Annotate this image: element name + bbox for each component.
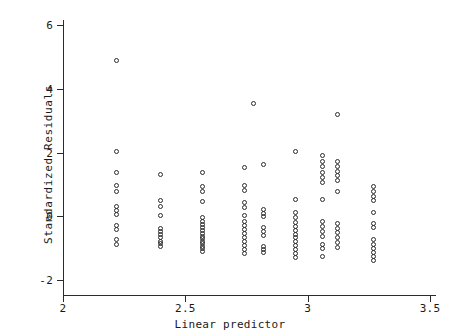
data-point [335, 169, 340, 174]
data-point [200, 222, 205, 227]
data-point [335, 164, 340, 169]
data-point [200, 184, 205, 189]
data-point [200, 244, 205, 249]
data-point [335, 178, 340, 183]
data-point [242, 205, 247, 210]
data-points-layer [0, 0, 460, 335]
data-point [200, 228, 205, 233]
data-point [158, 235, 163, 240]
data-point [335, 235, 340, 240]
data-point [371, 210, 376, 215]
data-point [242, 223, 247, 228]
data-point [293, 220, 298, 225]
data-point [158, 198, 163, 203]
data-point [293, 210, 298, 215]
data-point [114, 58, 119, 63]
x-tick-label: 2 [60, 303, 67, 314]
data-point [293, 232, 298, 237]
data-point [335, 230, 340, 235]
y-tick-mark [57, 89, 63, 90]
data-point [293, 235, 298, 240]
data-point [114, 223, 119, 228]
data-point [158, 226, 163, 231]
data-point [261, 207, 266, 212]
data-point [114, 149, 119, 154]
data-point [114, 189, 119, 194]
data-point [114, 208, 119, 213]
data-point [158, 172, 163, 177]
data-point [371, 250, 376, 255]
data-point [261, 244, 266, 249]
data-point [293, 239, 298, 244]
data-point [242, 235, 247, 240]
y-tick-label: 6 [46, 20, 53, 31]
data-point [320, 242, 325, 247]
data-point [320, 254, 325, 259]
data-point [242, 188, 247, 193]
data-point [114, 183, 119, 188]
data-point [114, 242, 119, 247]
data-point [261, 229, 266, 234]
data-point [371, 225, 376, 230]
data-point [335, 189, 340, 194]
data-point [200, 249, 205, 254]
data-point [320, 219, 325, 224]
y-tick-mark [57, 25, 63, 26]
data-point [320, 224, 325, 229]
data-point [320, 234, 325, 239]
data-point [242, 243, 247, 248]
data-point [261, 247, 266, 252]
data-point [114, 204, 119, 209]
data-point [200, 239, 205, 244]
data-point [158, 244, 163, 249]
data-point [371, 221, 376, 226]
data-point [320, 170, 325, 175]
data-point [335, 226, 340, 231]
data-point [200, 189, 205, 194]
data-point [293, 197, 298, 202]
x-tick-label: 2.5 [175, 303, 195, 314]
data-point [371, 184, 376, 189]
data-point [335, 159, 340, 164]
data-point [371, 246, 376, 251]
data-point [200, 241, 205, 246]
data-point [261, 162, 266, 167]
data-point [200, 170, 205, 175]
y-tick-mark [57, 153, 63, 154]
data-point [114, 227, 119, 232]
data-point [251, 101, 256, 106]
data-point [200, 231, 205, 236]
data-point [242, 213, 247, 218]
y-axis-line [63, 20, 64, 296]
data-point [114, 170, 119, 175]
x-tick-label: 3.5 [420, 303, 440, 314]
data-point [200, 234, 205, 239]
data-point [200, 199, 205, 204]
data-point [200, 236, 205, 241]
data-point [335, 240, 340, 245]
data-point [261, 214, 266, 219]
data-point [114, 212, 119, 217]
data-point [371, 237, 376, 242]
data-point [371, 254, 376, 259]
data-point [242, 227, 247, 232]
data-point [293, 251, 298, 256]
data-point [320, 229, 325, 234]
data-point [158, 232, 163, 237]
data-point [261, 225, 266, 230]
data-point [293, 228, 298, 233]
data-point [320, 246, 325, 251]
data-point [261, 250, 266, 255]
data-point [200, 225, 205, 230]
data-point [335, 221, 340, 226]
data-point [371, 242, 376, 247]
data-point [158, 241, 163, 246]
data-point [293, 215, 298, 220]
data-point [200, 219, 205, 224]
data-point [158, 204, 163, 209]
data-point [242, 247, 247, 252]
data-point [293, 243, 298, 248]
data-point [242, 239, 247, 244]
data-point [293, 149, 298, 154]
data-point [293, 255, 298, 260]
